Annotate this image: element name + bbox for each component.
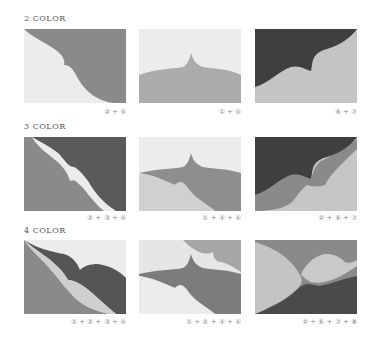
panel-caption: ② + ③ + ④	[24, 214, 126, 222]
panel-caption: ② + ⑥ + ⑦ + ⑧	[255, 318, 357, 326]
swatch-panel-1-2-4-5	[139, 240, 241, 314]
swatch-panel-1-5	[139, 29, 241, 103]
swatch-panel-1-2-3-4	[24, 240, 126, 314]
section-title-3-color: 3 COLOR	[24, 122, 66, 131]
swatch-panel-1-4-5	[139, 137, 241, 211]
panel-caption: ② + ④	[24, 108, 126, 116]
swatch-panel-2-6-7-8	[255, 240, 357, 314]
panel-caption: ① + ⑤	[139, 108, 241, 116]
swatch-panel-2-3-4	[24, 137, 126, 211]
section-title-4-color: 4 COLOR	[24, 226, 66, 235]
panel-caption: ① + ② + ③ + ④	[24, 318, 126, 326]
swatch-panel-2-6-7	[255, 137, 357, 211]
section-title-2-color: 2 COLOR	[24, 14, 66, 23]
panel-caption: ⑥ + ⑦	[255, 108, 357, 116]
panel-caption: ① + ② + ④ + ⑤	[139, 318, 241, 326]
panel-caption: ② + ⑥ + ⑦	[255, 214, 357, 222]
swatch-panel-6-7	[255, 29, 357, 103]
swatch-panel-2-4	[24, 29, 126, 103]
panel-caption: ① + ④ + ⑤	[139, 214, 241, 222]
